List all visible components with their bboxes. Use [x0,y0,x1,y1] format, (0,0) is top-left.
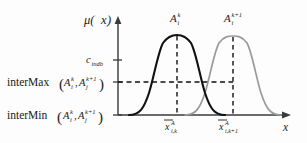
y-axis-label-paren: ) [106,13,111,27]
intermin-arg2-sub: j [84,116,87,123]
c-indb-base: c [86,54,91,65]
intermax-arg2-base: A [78,77,86,88]
intermin-comma: , [74,110,77,121]
x-tick-left-sup: A [170,120,175,126]
x-tick-right-base: x [218,121,224,132]
curve-label-left-sub: i [178,19,180,26]
intermax-arg1-base: A [63,77,71,88]
intermax-name: interMax [7,76,49,88]
x-tick-right-sup: A [224,120,229,126]
intermin-arg1-base: A [62,110,70,121]
x-tick-left-sub: i,k [171,128,177,134]
curve-label-left-base: A [169,12,177,24]
intermin-arg1-sub: i [70,116,72,123]
intermax-arg1-sub: i [71,83,73,90]
intermin-paren-close: ) [98,109,103,126]
curve-label-left-group: A i k [169,11,181,26]
intermax-arg1-sup: k [71,75,74,82]
intermin-paren-open: ( [57,109,62,126]
x-tick-left-base: x [164,121,170,132]
fuzzy-membership-figure: μ( x ) x c indb interMax ( A i k , A j k… [0,0,307,143]
y-axis-label-x: x [100,13,107,27]
intermax-comma: , [75,77,78,88]
intermin-arg1-sup: k [70,108,73,115]
y-axis-label-mu: μ( [83,13,95,27]
intermax-arg2-sup: k+1 [86,75,97,82]
curve-label-right-sub: i [232,19,234,26]
curve-label-right-sup: k+1 [232,11,243,18]
intermin-name: interMin [7,109,47,121]
intermax-arg2-sub: j [85,83,88,90]
curve-label-right-base: A [223,12,231,24]
c-indb-subscript: indb [92,60,104,67]
curve-label-left-sup: k [178,11,181,18]
intermin-arg2-sup: k+1 [85,108,96,115]
intermin-arg2-base: A [77,110,85,121]
x-axis-label: x [282,121,289,133]
x-tick-right-sub: i,k+1 [225,128,238,134]
intermax-paren-close: ) [99,76,104,93]
